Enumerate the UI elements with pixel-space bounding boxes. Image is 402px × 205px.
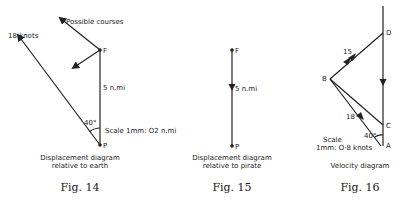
course-arrow-18-knots [18,35,100,145]
line-bc [330,79,383,125]
caption-line-1: Displacement diagram [192,154,272,162]
label-distance: 5 n.mi [235,85,257,93]
label-distance: 5 n.mi [103,84,125,92]
point-p-dot [230,144,234,148]
figure-number: Fig. 16 [340,181,379,194]
label-a: A [386,142,391,150]
arrow-15-b [343,57,351,65]
label-d: D [386,29,391,37]
label-p: P [235,143,239,151]
fig-16-velocity: D 15 B 18 C 40° A Scale 1mm: O·8 knots V… [316,6,391,194]
label-c: C [386,122,391,130]
point-f-dot [98,48,102,52]
label-15: 15 [343,48,352,56]
label-18-knots: 18 knots [8,32,39,40]
label-f: F [103,47,107,55]
caption-line-2: relative to pirate [203,162,262,170]
fig-15-displacement-pirate: F 5 n.mi P Displacement diagram relative… [192,47,272,194]
label-p: P [103,142,107,150]
line-db [330,33,383,79]
caption-line-1: Displacement diagram [40,154,120,162]
label-18: 18 [346,113,355,121]
figure-number: Fig. 15 [212,181,251,194]
label-scale-1: Scale [323,136,342,144]
label-b: B [322,75,327,83]
label-angle: 40° [84,119,96,127]
diagram-canvas: 18 knots Possible courses F 5 n.mi 40° S… [0,0,402,205]
label-f: F [235,47,239,55]
label-angle: 40° [364,132,376,140]
caption-line-1: Velocity diagram [331,162,390,170]
figure-number: Fig. 14 [60,181,99,194]
label-possible-courses: Possible courses [66,18,124,26]
angle-arc [90,128,100,131]
possible-course-arrow-2 [73,50,100,68]
downward-arrow-icon [380,79,387,86]
point-f-dot [230,48,234,52]
point-p-dot [98,143,102,147]
caption-line-2: relative to earth [52,162,109,170]
fig-14-displacement-earth: 18 knots Possible courses F 5 n.mi 40° S… [8,18,176,194]
label-scale: Scale 1mm: O2 n.mi [105,127,176,135]
label-scale-2: 1mm: O·8 knots [316,144,373,152]
